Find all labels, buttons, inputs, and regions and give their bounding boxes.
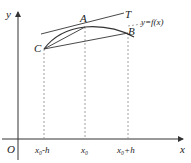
point-a-label: A (79, 12, 87, 24)
point-c-label: C (34, 42, 42, 54)
point-t-label: T (125, 8, 132, 20)
tick-x0-plus-h: x₀+h (116, 145, 135, 155)
y-axis-label: y (5, 8, 11, 20)
point-b-label: B (128, 25, 135, 37)
tick-x0-minus-h: x₀-h (34, 145, 50, 155)
x-axis-label: x (179, 143, 185, 155)
diagram: y x O A B C T y=f(x) x₀-h x₀ x₀+h (0, 0, 191, 163)
tick-x0: x₀ (80, 145, 88, 155)
curve-label: y=f(x) (140, 17, 164, 27)
origin-label: O (7, 143, 15, 155)
